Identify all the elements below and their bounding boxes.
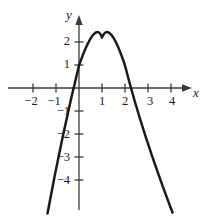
graph-figure: y x −2−11234 21−1−2−3−4 xyxy=(0,0,210,217)
y-axis xyxy=(75,15,82,210)
y-tick-label: −1 xyxy=(46,105,70,118)
graph-canvas xyxy=(0,0,210,217)
x-tick-label: −2 xyxy=(19,95,43,108)
y-tick-label: −4 xyxy=(46,174,70,187)
x-tick-label: 2 xyxy=(113,95,137,108)
y-tick-label: −2 xyxy=(46,128,70,141)
x-tick-label: 4 xyxy=(160,95,184,108)
y-tick-label: 1 xyxy=(46,58,70,71)
x-axis-label: x xyxy=(193,86,199,99)
y-axis-label: y xyxy=(66,8,72,21)
x-axis xyxy=(8,84,192,91)
y-tick-label: −3 xyxy=(46,151,70,164)
x-tick-label: 3 xyxy=(138,95,162,108)
y-tick-label: 2 xyxy=(46,35,70,48)
x-tick-label: 1 xyxy=(90,95,114,108)
